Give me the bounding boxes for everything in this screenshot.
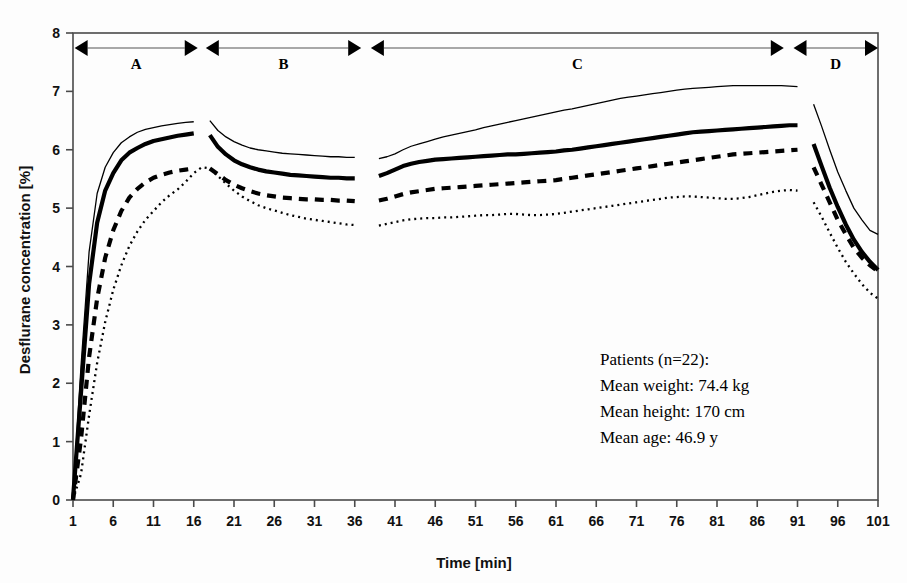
y-tick-label: 5: [52, 200, 60, 216]
y-tick-label: 4: [52, 259, 60, 275]
desflurane-concentration-line-chart: 012345678 161116212631364146515661667176…: [0, 0, 907, 583]
x-tick-label: 31: [307, 513, 323, 529]
patients-annotation: Patients (n=22):Mean weight: 74.4 kgMean…: [600, 350, 750, 447]
plot-border: [73, 33, 878, 500]
x-tick-label: 36: [347, 513, 363, 529]
y-tick-label: 0: [52, 492, 60, 508]
x-tick-label: 16: [186, 513, 202, 529]
phase-arrow-head-left: [371, 40, 384, 56]
x-tick-label: 11: [146, 513, 161, 529]
plot-frame: [73, 33, 878, 500]
x-tick-label: 1: [69, 513, 77, 529]
x-axis-label: Time [min]: [436, 554, 512, 571]
x-tick-label: 61: [548, 513, 564, 529]
annotation-line-2: Mean height: 170 cm: [600, 402, 745, 421]
x-tick-label: 66: [588, 513, 604, 529]
x-tick-label: 71: [629, 513, 645, 529]
x-tick-label: 46: [427, 513, 443, 529]
y-tick-label: 1: [52, 434, 60, 450]
x-tick-label: 81: [709, 513, 725, 529]
y-axis-ticks: 012345678: [52, 25, 73, 508]
phase-arrow-head-right: [865, 40, 878, 56]
phase-label-a: A: [131, 56, 142, 72]
phase-arrow-head-left: [793, 40, 806, 56]
chart-figure: 012345678 161116212631364146515661667176…: [0, 0, 907, 583]
x-tick-label: 91: [790, 513, 806, 529]
x-tick-label: 101: [866, 513, 890, 529]
phase-arrow-head-left: [75, 40, 88, 56]
x-tick-label: 86: [749, 513, 765, 529]
y-tick-label: 3: [52, 317, 60, 333]
annotation-line-1: Mean weight: 74.4 kg: [600, 376, 750, 395]
x-tick-label: 6: [109, 513, 117, 529]
series-mean-thick-solid: [73, 125, 878, 499]
x-tick-label: 96: [830, 513, 846, 529]
x-tick-label: 76: [669, 513, 685, 529]
x-tick-label: 41: [387, 513, 403, 529]
y-axis-label: Desflurane concentration [%]: [16, 166, 33, 374]
phase-arrow-head-right: [771, 40, 784, 56]
series-lowest-dotted: [73, 167, 878, 500]
series-upper-thin-solid: [73, 86, 878, 498]
data-curves-group: [73, 86, 878, 500]
phase-arrow-head-right: [348, 40, 361, 56]
phase-label-d: D: [830, 56, 841, 72]
y-tick-label: 6: [52, 142, 60, 158]
phase-label-c: C: [572, 56, 583, 72]
y-tick-label: 2: [52, 375, 60, 391]
x-tick-label: 26: [266, 513, 282, 529]
x-tick-label: 21: [226, 513, 242, 529]
phase-arrow-head-right: [185, 40, 198, 56]
phase-arrow-group: ABCD: [75, 40, 878, 72]
x-tick-label: 51: [468, 513, 484, 529]
annotation-line-3: Mean age: 46.9 y: [600, 428, 719, 447]
phase-arrow-head-left: [206, 40, 219, 56]
annotation-line-0: Patients (n=22):: [600, 350, 709, 369]
y-tick-label: 7: [52, 83, 60, 99]
x-axis-ticks: 1611162126313641465156616671768186919610…: [69, 500, 890, 529]
x-tick-label: 56: [508, 513, 524, 529]
y-tick-label: 8: [52, 25, 60, 41]
series-lower-thick-dashed: [73, 150, 878, 500]
phase-label-b: B: [278, 56, 288, 72]
